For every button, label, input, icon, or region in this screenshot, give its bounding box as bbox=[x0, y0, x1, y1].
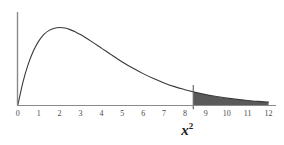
x-axis-title: x2 bbox=[181, 122, 193, 138]
x-tick-label-12: 12 bbox=[261, 109, 277, 119]
x-tick-label-2: 2 bbox=[52, 109, 68, 119]
x-tick-label-3: 3 bbox=[73, 109, 89, 119]
chi-square-chart: 0123456789101112 x2 bbox=[0, 0, 284, 145]
chart-plot-area bbox=[0, 0, 284, 145]
x-tick-label-1: 1 bbox=[31, 109, 47, 119]
x-tick-label-0: 0 bbox=[10, 109, 26, 119]
axis-title-exponent: 2 bbox=[189, 121, 194, 131]
x-tick-label-8: 8 bbox=[177, 109, 193, 119]
x-tick-label-5: 5 bbox=[114, 109, 130, 119]
x-tick-label-6: 6 bbox=[135, 109, 151, 119]
x-tick-label-9: 9 bbox=[198, 109, 214, 119]
x-tick-label-11: 11 bbox=[240, 109, 256, 119]
x-tick-label-4: 4 bbox=[93, 109, 109, 119]
chi-square-density-curve bbox=[18, 27, 269, 105]
x-tick-label-10: 10 bbox=[219, 109, 235, 119]
axis-title-base: x bbox=[181, 122, 189, 138]
x-tick-label-7: 7 bbox=[156, 109, 172, 119]
